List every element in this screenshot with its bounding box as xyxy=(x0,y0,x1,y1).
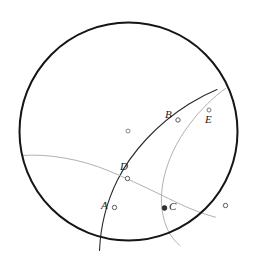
point-d-label: D xyxy=(120,161,128,172)
point-b-marker[interactable] xyxy=(176,118,180,122)
point-b-label: B xyxy=(165,109,172,120)
figure-canvas xyxy=(0,0,258,265)
point-boundary-right-marker[interactable] xyxy=(223,203,227,207)
geodesic-dark-ADB xyxy=(100,90,218,251)
point-e-marker[interactable] xyxy=(207,108,211,112)
point-a-marker[interactable] xyxy=(112,205,116,209)
point-c-marker[interactable] xyxy=(162,206,167,211)
point-c-label: C xyxy=(169,201,176,212)
point-d-marker[interactable] xyxy=(125,176,129,180)
point-a-label: A xyxy=(101,200,108,211)
hyperbolic-disk-figure: ABCDE xyxy=(0,0,258,265)
point-e-label: E xyxy=(205,114,212,125)
disk-center xyxy=(126,129,130,133)
